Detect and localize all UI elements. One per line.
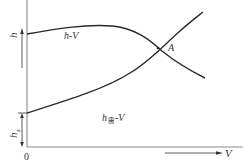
x-axis-arrowhead-icon <box>216 151 223 155</box>
y-axis-arrowhead-icon <box>20 28 24 34</box>
hz-arrowhead-up-icon <box>20 113 24 118</box>
hz-annotation: h z <box>7 113 27 147</box>
h-v-curve-label: h-V <box>64 30 80 41</box>
y-axis-label-group: h <box>7 28 24 68</box>
y-axis-label: h <box>7 32 19 38</box>
curve2-label-sub: 需 <box>108 117 115 125</box>
x-axis-label: V <box>225 147 233 159</box>
intersection-point-a <box>157 47 160 50</box>
curve2-label-tail: -V <box>115 112 126 123</box>
pump-system-curve-diagram: h h z 0 V h-V h 需 -V A <box>0 0 249 164</box>
h-required-v-curve-label: h 需 -V <box>102 112 126 125</box>
x-axis-label-group: V <box>165 147 233 159</box>
intersection-label-a: A <box>167 42 175 53</box>
curve2-label-main: h <box>102 112 107 123</box>
origin-label: 0 <box>24 151 29 162</box>
hz-arrowhead-down-icon <box>20 142 24 147</box>
hz-label-subscript: z <box>14 129 22 133</box>
